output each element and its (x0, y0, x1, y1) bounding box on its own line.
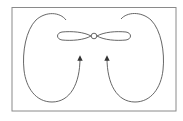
right-airflow-arrow (107, 14, 164, 103)
propeller (58, 32, 131, 41)
left-blade (58, 32, 92, 41)
right-blade (97, 32, 131, 41)
diagram-canvas (0, 0, 183, 121)
airflow-diagram (0, 0, 183, 121)
propeller-hub (91, 33, 97, 39)
left-airflow-arrow (24, 14, 81, 102)
